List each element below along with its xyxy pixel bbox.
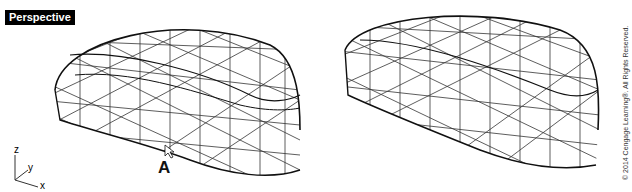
axis-indicator-icon: z y x: [10, 150, 60, 190]
wireframe-models: [0, 0, 632, 192]
axis-x-label: x: [40, 180, 45, 191]
callout-label-a: A: [158, 158, 170, 178]
axis-y-label: y: [28, 162, 33, 173]
right-mesh-model: [330, 5, 600, 180]
copyright-notice: © 2014 Cengage Learning®. All Rights Res…: [622, 26, 629, 180]
axis-z-label: z: [14, 144, 19, 155]
perspective-viewport[interactable]: Perspective: [0, 0, 632, 192]
